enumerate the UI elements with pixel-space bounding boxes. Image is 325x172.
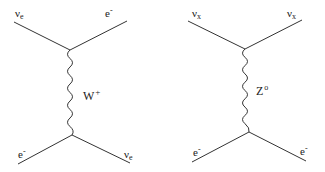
label-z-zero: Zo bbox=[256, 83, 268, 98]
label-electron-bottom: e- bbox=[18, 147, 26, 160]
fermion-line-top-right bbox=[245, 20, 302, 49]
label-electron-top: e- bbox=[105, 6, 113, 19]
fermion-line-bottom-left bbox=[18, 135, 72, 164]
feynman-diagrams: νe e- W+ e- νe νx νx Zo e- e- bbox=[0, 0, 325, 172]
label-nu-x-left: νx bbox=[192, 7, 201, 21]
label-w-plus: W+ bbox=[83, 87, 100, 103]
fermion-line-top-left bbox=[188, 21, 245, 49]
fermion-line-bottom-right bbox=[249, 132, 306, 161]
fermion-line-bottom-right bbox=[72, 135, 130, 163]
diagram-neutral-current: νx νx Zo e- e- bbox=[188, 7, 308, 162]
label-electron-left: e- bbox=[193, 145, 201, 158]
label-nu-e-bottom: νe bbox=[124, 148, 133, 162]
label-electron-right: e- bbox=[300, 144, 308, 157]
z-boson-propagator bbox=[243, 49, 250, 132]
w-boson-propagator bbox=[68, 50, 74, 135]
label-nu-e-top: νe bbox=[15, 7, 24, 21]
fermion-line-top-right bbox=[70, 21, 127, 50]
label-nu-x-right: νx bbox=[287, 7, 296, 21]
fermion-line-top-left bbox=[14, 22, 70, 50]
diagram-charged-current: νe e- W+ e- νe bbox=[14, 6, 133, 164]
